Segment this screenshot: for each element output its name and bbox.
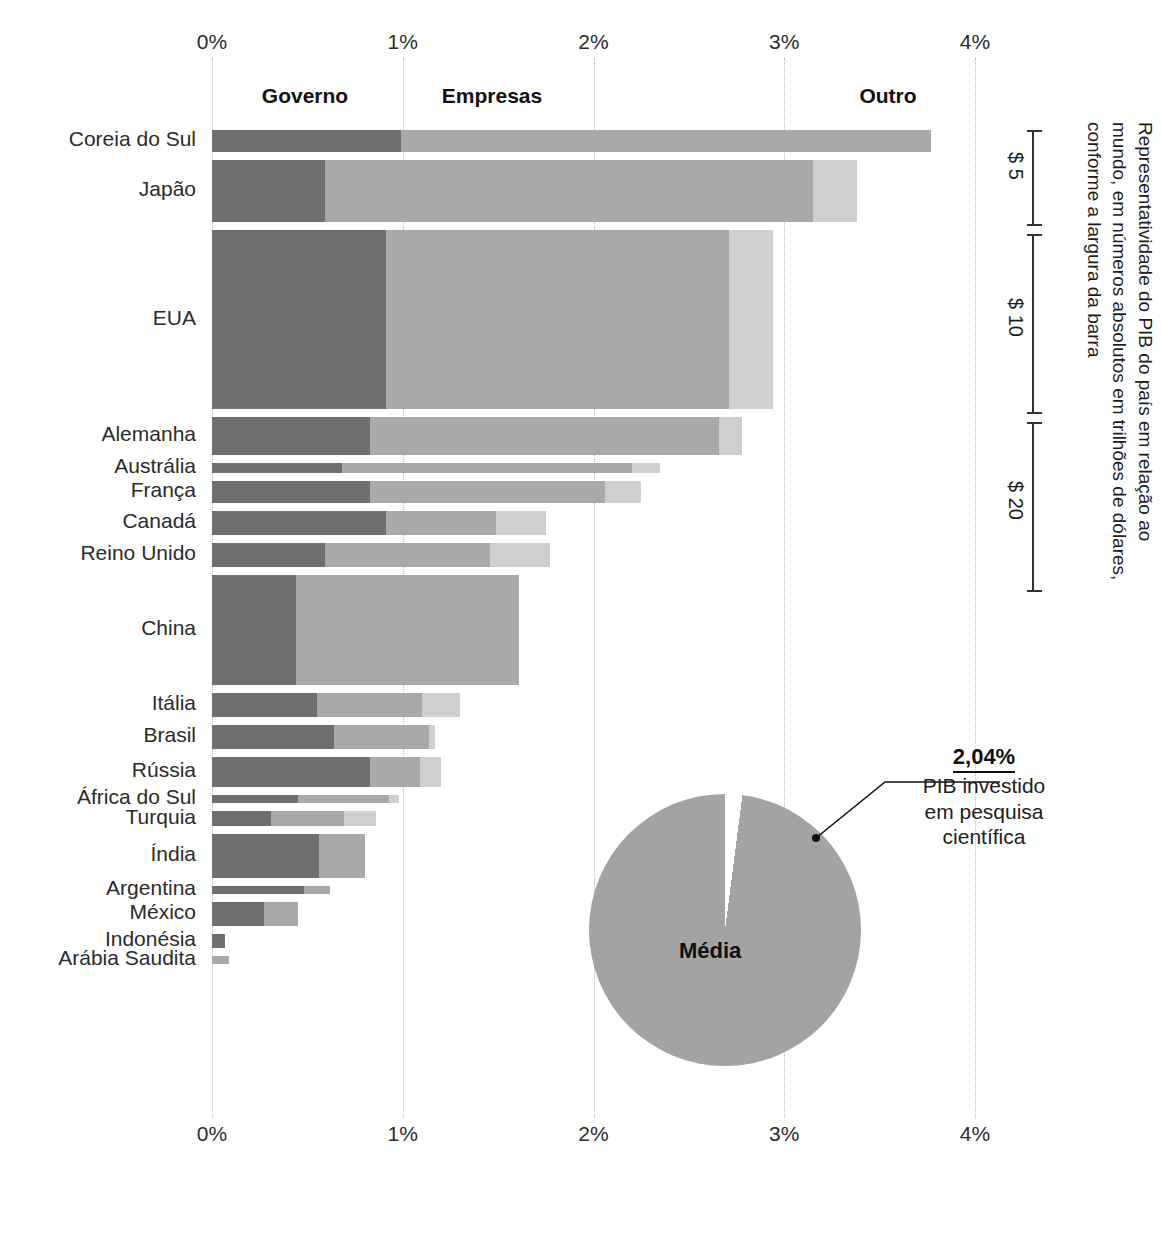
category-label: China	[0, 616, 196, 640]
bar-segment-empresas	[319, 834, 365, 878]
bar-segment-empresas	[317, 693, 422, 717]
bar-segment-outro	[490, 543, 549, 567]
table-row	[212, 130, 975, 152]
bar-segment-empresas	[325, 160, 813, 222]
bar-segment-empresas	[296, 575, 519, 685]
table-row	[212, 481, 975, 503]
bar-segment-outro	[813, 160, 857, 222]
bar-segment-empresas	[304, 886, 331, 894]
pie-chart	[589, 794, 861, 1066]
bar-segment-empresas	[386, 230, 729, 409]
bar-segment-empresas	[334, 725, 429, 749]
category-label: Arábia Saudita	[0, 946, 196, 970]
table-row	[212, 511, 975, 535]
legend-governo: Governo	[225, 84, 385, 108]
table-row	[212, 693, 975, 717]
x-tick-top-0%: 0%	[172, 30, 252, 54]
pie-callout-caption-2: em pesquisa	[886, 799, 1082, 825]
category-label: Canadá	[0, 509, 196, 533]
category-label: Itália	[0, 691, 196, 715]
category-label: México	[0, 900, 196, 924]
table-row	[212, 417, 975, 455]
bar-segment-empresas	[370, 481, 605, 503]
pie-callout-caption-3: científica	[886, 824, 1082, 850]
category-label: Argentina	[0, 876, 196, 900]
bar-segment-governo	[212, 693, 317, 717]
bar-segment-governo	[212, 811, 271, 826]
bar-segment-empresas	[386, 511, 497, 535]
scale-bracket	[1032, 422, 1034, 592]
side-note: Representatividade do PIB do país em rel…	[1112, 122, 1158, 592]
pie-callout-value: 2,04%	[953, 744, 1015, 773]
bar-segment-empresas	[370, 417, 719, 455]
bar-segment-empresas	[212, 956, 229, 964]
bar-segment-governo	[212, 575, 296, 685]
bar-segment-governo	[212, 511, 386, 535]
pie-slice-media	[589, 794, 861, 1066]
pie-callout-caption: PIB investido	[886, 773, 1082, 799]
bar-segment-outro	[605, 481, 641, 503]
bar-segment-outro	[389, 795, 399, 803]
table-row	[212, 463, 975, 473]
bar-segment-governo	[212, 130, 401, 152]
table-row	[212, 725, 975, 749]
x-tick-bottom-1%: 1%	[363, 1122, 443, 1146]
bar-segment-outro	[719, 417, 742, 455]
table-row	[212, 757, 975, 787]
bar-segment-empresas	[401, 130, 931, 152]
scale-bracket-label: $ 5	[1004, 152, 1027, 180]
x-tick-bottom-4%: 4%	[935, 1122, 1015, 1146]
table-row	[212, 543, 975, 567]
x-tick-top-1%: 1%	[363, 30, 443, 54]
category-label: Reino Unido	[0, 541, 196, 565]
table-row	[212, 160, 975, 222]
category-label: França	[0, 478, 196, 502]
bar-segment-governo	[212, 160, 325, 222]
bar-segment-empresas	[298, 795, 390, 803]
bar-segment-governo	[212, 725, 334, 749]
category-label: EUA	[0, 306, 196, 330]
x-tick-top-3%: 3%	[744, 30, 824, 54]
chart-canvas: 0%0%1%1%2%2%3%3%4%4%GovernoEmpresasOutro…	[0, 0, 1162, 1235]
bar-segment-outro	[422, 693, 460, 717]
bar-segment-empresas	[264, 902, 298, 926]
table-row	[212, 575, 975, 685]
category-label: Turquia	[0, 805, 196, 829]
bar-segment-outro	[729, 230, 773, 409]
x-tick-bottom-0%: 0%	[172, 1122, 252, 1146]
bar-segment-outro	[429, 725, 435, 749]
category-label: Índia	[0, 842, 196, 866]
gridline-4%	[975, 58, 977, 1118]
scale-bracket	[1032, 234, 1034, 414]
category-label: Rússia	[0, 758, 196, 782]
scale-bracket-label: $ 10	[1004, 298, 1027, 337]
bar-segment-governo	[212, 417, 370, 455]
bar-segment-governo	[212, 834, 319, 878]
bar-segment-governo	[212, 481, 370, 503]
bar-segment-governo	[212, 757, 370, 787]
category-label: Coreia do Sul	[0, 127, 196, 151]
bar-segment-empresas	[370, 757, 420, 787]
bar-segment-outro	[420, 757, 441, 787]
pie-center-label: Média	[679, 938, 741, 964]
bar-segment-outro	[496, 511, 546, 535]
x-tick-top-2%: 2%	[554, 30, 634, 54]
x-tick-top-4%: 4%	[935, 30, 1015, 54]
bar-segment-outro	[632, 463, 661, 473]
bar-segment-empresas	[342, 463, 632, 473]
legend-outro: Outro	[808, 84, 968, 108]
bar-segment-empresas	[325, 543, 491, 567]
bar-segment-governo	[212, 886, 304, 894]
x-tick-bottom-3%: 3%	[744, 1122, 824, 1146]
pie-callout: 2,04%PIB investidoem pesquisacientífica	[886, 744, 1082, 850]
bar-segment-outro	[344, 811, 376, 826]
bar-segment-empresas	[271, 811, 343, 826]
scale-bracket-label: $ 20	[1004, 481, 1027, 520]
category-label: Brasil	[0, 723, 196, 747]
bar-segment-governo	[212, 902, 264, 926]
category-label: Japão	[0, 177, 196, 201]
bar-segment-governo	[212, 934, 225, 948]
bar-segment-governo	[212, 230, 386, 409]
x-tick-bottom-2%: 2%	[554, 1122, 634, 1146]
legend-empresas: Empresas	[412, 84, 572, 108]
